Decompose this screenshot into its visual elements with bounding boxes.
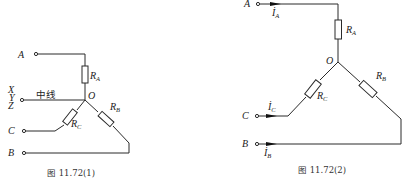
circuit-diagrams: A RA X Y Z 中线 O C RC B RB 图 11.72(1) — [0, 0, 420, 188]
current-arrow-a — [270, 2, 281, 6]
caption-figure-2: 图 11.72(2) — [298, 165, 346, 175]
caption-figure-1: 图 11.72(1) — [47, 168, 95, 178]
node-o-label: O — [326, 55, 333, 66]
node-o-label: O — [88, 90, 95, 101]
current-arrow-c — [266, 114, 277, 118]
label-c: C — [242, 110, 249, 121]
terminal-b — [22, 151, 25, 154]
terminal-b — [255, 142, 258, 145]
resistor-rb — [359, 80, 377, 97]
wire-o-to-rb — [338, 62, 360, 82]
label-ra: RA — [89, 70, 100, 82]
wire-rb-to-b — [259, 96, 401, 144]
wire-o-to-rb — [85, 100, 98, 112]
label-ra: RA — [345, 24, 356, 36]
figure-1-star-with-neutral: A RA X Y Z 中线 O C RC B RB 图 11.72(1) — [7, 49, 129, 178]
terminal-c — [22, 129, 25, 132]
terminal-a — [34, 52, 37, 55]
resistor-ra — [82, 66, 88, 83]
resistor-ra — [335, 20, 342, 39]
terminal-a — [256, 2, 259, 5]
wire-o-to-rc — [77, 100, 85, 110]
wire-rb-to-b — [26, 126, 129, 153]
label-ia: İA — [271, 7, 279, 19]
label-ib: İB — [263, 147, 271, 159]
label-b: B — [242, 138, 248, 149]
neutral-label: 中线 — [36, 89, 56, 100]
terminal-c — [255, 114, 258, 117]
label-z: Z — [8, 100, 14, 111]
label-c: C — [8, 125, 15, 136]
label-rc: RC — [70, 118, 82, 130]
wire-rc-to-c — [26, 125, 64, 131]
label-a: A — [243, 0, 251, 9]
label-rc: RC — [316, 90, 328, 102]
label-rb: RB — [375, 70, 386, 82]
current-arrow-b — [266, 142, 277, 146]
figure-2-star-no-neutral: A İA RA O C İC RC B İB RB 图 11.72(2) — [242, 0, 401, 175]
label-a: A — [17, 49, 25, 60]
label-ic: İC — [267, 101, 276, 113]
label-b: B — [8, 147, 14, 158]
label-rb: RB — [109, 101, 120, 113]
terminal-neutral — [20, 98, 23, 101]
resistor-rb — [98, 111, 114, 126]
wire-rc-to-c — [259, 97, 306, 116]
wire-a — [38, 54, 85, 66]
